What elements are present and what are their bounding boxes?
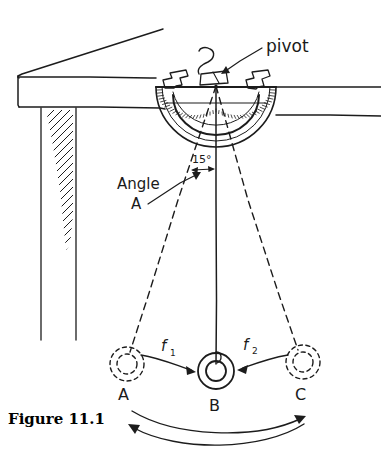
table-front-top-line (18, 77, 156, 78)
force-label-f1-subscript: 1 (170, 348, 176, 358)
pendulum-string-left-dashed (130, 86, 216, 352)
bob-a-inner-ring (117, 354, 137, 374)
pivot-string-squiggle (198, 48, 213, 74)
swing-arc-left-arrowhead (128, 424, 140, 434)
swing-arcs-group (128, 411, 306, 445)
table-top-back-edge (18, 29, 163, 76)
pivot-label-group: pivot (221, 36, 309, 74)
bob-a-outer-ring (110, 347, 144, 381)
pendulum-string-center (216, 86, 217, 364)
position-label-a: A (118, 385, 129, 404)
swing-arc-right-arrowhead (294, 415, 306, 424)
pivot-leader-line (224, 48, 262, 72)
table-leg-shadow-hatching (20, 40, 100, 320)
force-arrow-f1-head (186, 366, 196, 375)
tape-left (163, 70, 188, 88)
angle-label-line2: A (131, 195, 142, 213)
table-front-bottom-line-right (276, 115, 381, 116)
angle-measure-group: 15° (191, 153, 215, 173)
position-label-c: C (295, 385, 306, 404)
table-group (18, 29, 381, 340)
figure-caption: Figure 11.1 (8, 410, 105, 428)
bob-c-group: C (286, 345, 320, 404)
position-label-b: B (209, 396, 220, 415)
pivot-tape-fold (213, 72, 219, 83)
bob-c-inner-ring (293, 352, 313, 372)
pivot-knot-group (198, 48, 213, 74)
angle-arrowhead-right (208, 166, 215, 172)
pendulum-string-right-dashed (216, 86, 298, 350)
angle-a-label-group: Angle A (117, 172, 201, 213)
force-label-f2: f (243, 336, 251, 354)
angle-label-line1: Angle (117, 175, 160, 193)
force-arrow-f1-shaft (141, 355, 191, 370)
bob-b-group: B (198, 352, 234, 415)
force-arrow-f2-group: f 2 (237, 336, 288, 374)
table-left-face-edge (18, 77, 19, 107)
angle-value-label: 15° (192, 153, 212, 166)
force-label-f2-subscript: 2 (252, 346, 258, 356)
bob-c-outer-ring (286, 345, 320, 379)
pivot-label: pivot (266, 36, 309, 56)
force-arrow-f1-group: f 1 (141, 337, 196, 375)
figure-container: 15° Angle A pivot B A (0, 0, 381, 453)
bob-a-group: A (110, 347, 144, 404)
force-label-f1: f (161, 337, 169, 355)
force-arrow-f2-shaft (243, 355, 288, 368)
pivot-leader-arrowhead (221, 66, 230, 74)
pendulum-diagram: 15° Angle A pivot B A (0, 0, 381, 453)
force-arrow-f2-head (237, 365, 248, 374)
